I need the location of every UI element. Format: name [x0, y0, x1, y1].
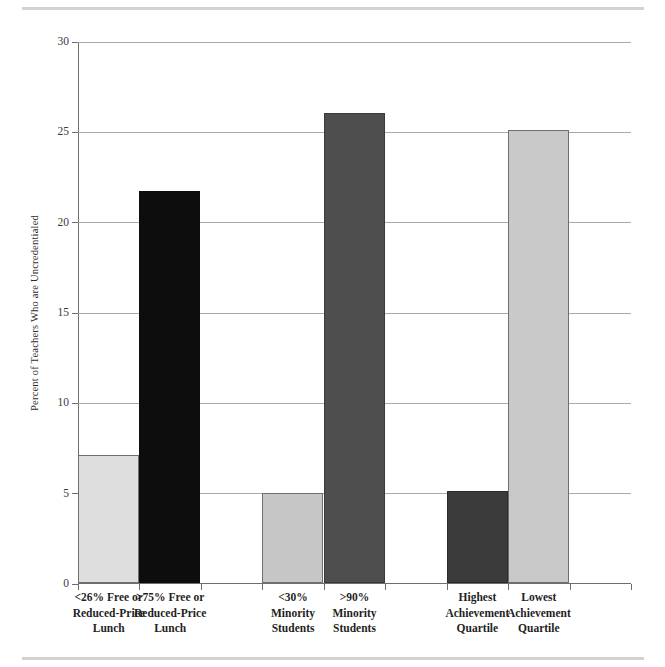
- y-tick-label: 15: [58, 307, 70, 319]
- y-tick-mark: [72, 313, 78, 314]
- bar: [139, 191, 200, 583]
- x-axis-label-line: Lowest: [499, 590, 578, 606]
- x-axis-label-line: Lunch: [130, 621, 209, 637]
- x-axis-label-line: Reduced-Price: [130, 606, 209, 622]
- y-tick-mark: [72, 222, 78, 223]
- x-axis-label-line: Students: [315, 621, 394, 637]
- x-axis-label: LowestAchievementQuartile: [499, 590, 578, 637]
- gridline: [78, 42, 631, 43]
- x-axis-label-line: Quartile: [499, 621, 578, 637]
- x-axis-label-line: Minority: [315, 606, 394, 622]
- bottom-divider-rule: [22, 657, 644, 660]
- x-axis-line: [78, 583, 631, 584]
- y-tick-label: 30: [58, 36, 70, 48]
- y-axis-title: Percent of Teachers Who are Uncredential…: [26, 42, 42, 584]
- plot-area: 051015202530: [78, 42, 631, 584]
- y-tick-mark: [72, 42, 78, 43]
- y-tick-label: 10: [58, 398, 70, 410]
- x-axis-label-line: >90%: [315, 590, 394, 606]
- y-tick-label: 5: [63, 488, 69, 500]
- bar-chart-figure: Percent of Teachers Who are Uncredential…: [0, 0, 665, 667]
- y-tick-label: 0: [63, 578, 69, 590]
- x-axis-label-line: >75% Free or: [130, 590, 209, 606]
- x-tick-mark: [631, 584, 632, 590]
- bar: [324, 113, 385, 583]
- top-divider-rule: [22, 7, 644, 10]
- y-tick-mark: [72, 403, 78, 404]
- x-axis-label: >90%MinorityStudents: [315, 590, 394, 637]
- y-tick-mark: [72, 132, 78, 133]
- bar: [508, 130, 569, 583]
- bar: [78, 455, 139, 583]
- x-axis-label: >75% Free orReduced-PriceLunch: [130, 590, 209, 637]
- x-axis-labels-group: <26% Free orReduced-PriceLunch>75% Free …: [78, 590, 631, 646]
- bar: [262, 493, 323, 583]
- y-tick-label: 25: [58, 127, 70, 139]
- bar: [447, 491, 508, 583]
- x-axis-label-line: Achievement: [499, 606, 578, 622]
- y-tick-label: 20: [58, 217, 70, 229]
